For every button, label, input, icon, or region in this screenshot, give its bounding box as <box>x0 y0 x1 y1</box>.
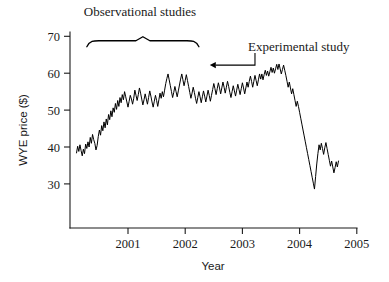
x-tick-label-2005: 2005 <box>344 237 369 251</box>
x-axis-title: Year <box>201 260 224 272</box>
x-tick-label-2003: 2003 <box>230 237 255 251</box>
x-tick-label-2004: 2004 <box>287 237 313 251</box>
x-axis-ticks <box>128 228 357 234</box>
y-tick-label-30: 30 <box>48 178 61 192</box>
y-axis-title: WYE price ($) <box>17 94 29 166</box>
x-axis-tick-labels: 2001 2002 2003 2004 2005 <box>116 237 370 251</box>
y-axis-tick-labels: 70 60 50 40 30 <box>48 30 61 192</box>
chart-container: 70 60 50 40 30 2001 2002 2003 2004 2005 … <box>0 0 389 282</box>
observational-studies-brace <box>87 37 199 47</box>
experimental-study-arrowhead <box>210 62 216 68</box>
experimental-study-arrow <box>216 53 255 65</box>
experimental-study-label: Experimental study <box>248 39 350 54</box>
y-tick-label-40: 40 <box>48 141 61 155</box>
y-tick-label-60: 60 <box>48 67 61 81</box>
x-tick-label-2002: 2002 <box>173 237 198 251</box>
x-tick-label-2001: 2001 <box>116 237 141 251</box>
price-line-chart: 70 60 50 40 30 2001 2002 2003 2004 2005 … <box>0 0 389 282</box>
y-tick-label-70: 70 <box>48 30 61 44</box>
observational-studies-label: Observational studies <box>84 4 196 19</box>
y-tick-label-50: 50 <box>48 104 61 118</box>
price-series-line <box>77 64 339 189</box>
y-axis-ticks <box>64 36 70 184</box>
